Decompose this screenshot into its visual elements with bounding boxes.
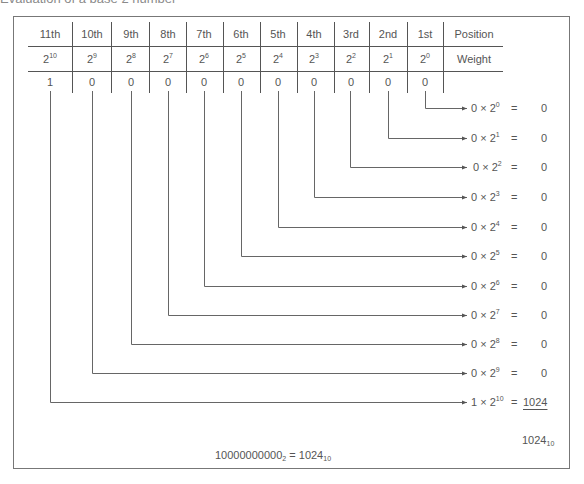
term-equation: 0 × 25	[471, 250, 500, 262]
arrow-bit-9th	[132, 91, 468, 345]
conclusion-equation: 100000000002 = 102410	[215, 449, 331, 461]
term-value: 0	[541, 191, 547, 203]
term-value: 0	[541, 280, 547, 292]
term-value: 0	[541, 338, 547, 350]
arrow-bit-7th	[205, 91, 468, 287]
term-value-underlined: 1024	[523, 396, 547, 408]
term-equation: 0 × 22	[473, 161, 502, 173]
arrow-bit-11th	[51, 91, 468, 403]
term-equation: 0 × 28	[471, 338, 500, 350]
term-equals: =	[511, 161, 517, 173]
sum-result: 102410	[522, 434, 554, 446]
term-equation: 0 × 23	[471, 191, 500, 203]
term-equation: 0 × 26	[471, 280, 500, 292]
term-equals: =	[511, 250, 517, 262]
term-equation: 1 × 210	[471, 396, 504, 408]
term-value: 0	[541, 250, 547, 262]
arrow-bit-6th	[242, 91, 468, 257]
term-equation: 0 × 21	[471, 132, 500, 144]
term-equals: =	[511, 338, 517, 350]
term-equals: =	[511, 132, 517, 144]
term-value: 0	[541, 221, 547, 233]
arrow-bit-3rd	[351, 91, 468, 168]
term-equals: =	[511, 191, 517, 203]
term-value: 0	[541, 161, 547, 173]
term-equals: =	[511, 221, 517, 233]
connector-arrows	[0, 0, 584, 484]
arrow-bit-10th	[93, 91, 468, 374]
term-equals: =	[511, 367, 517, 379]
term-value: 0	[541, 102, 547, 114]
arrow-bit-8th	[169, 91, 468, 316]
term-equals: =	[511, 102, 517, 114]
term-equation: 0 × 27	[471, 309, 500, 321]
arrow-bit-1st	[426, 91, 468, 109]
arrow-bit-2nd	[389, 91, 468, 139]
term-equation: 0 × 29	[471, 367, 500, 379]
term-equation: 0 × 24	[471, 221, 500, 233]
term-value: 0	[541, 367, 547, 379]
term-value: 0	[541, 309, 547, 321]
term-equals: =	[511, 396, 517, 408]
arrow-bit-4th	[315, 91, 468, 198]
term-equals: =	[511, 309, 517, 321]
term-equals: =	[511, 280, 517, 292]
arrow-bit-5th	[279, 91, 468, 228]
term-equation: 0 × 20	[471, 102, 500, 114]
term-value: 0	[541, 132, 547, 144]
